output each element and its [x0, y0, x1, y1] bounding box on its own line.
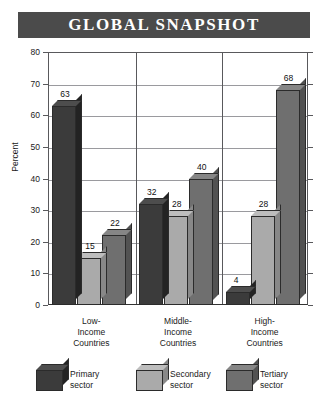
bar-value-label: 68: [284, 74, 293, 83]
y-axis-tick-mark-right: [308, 52, 313, 53]
legend-label-line1: Tertiary: [260, 369, 288, 380]
group-separator: [136, 53, 137, 304]
y-axis-tick-mark: [43, 84, 48, 85]
legend-swatch-front: [226, 370, 253, 391]
category-label-line: Countries: [135, 338, 222, 349]
bar-side-face: [213, 167, 219, 300]
category-label-line: Income: [221, 327, 308, 338]
legend-label-line2: sector: [260, 380, 288, 391]
legend-label-line1: Secondary: [170, 369, 211, 380]
chart-legend: PrimarysectorSecondarysectorTertiarysect…: [0, 358, 328, 406]
y-axis-tick-mark: [43, 210, 48, 211]
bar-side-face: [126, 223, 132, 299]
legend-label-line2: sector: [70, 380, 99, 391]
y-axis-tick-label: 80: [10, 48, 40, 57]
legend-swatch-side: [63, 358, 69, 385]
group-separator: [222, 53, 223, 304]
legend-swatch-side: [253, 358, 259, 385]
legend-swatch-primary-icon: [36, 370, 63, 391]
x-axis-category-label: Low-IncomeCountries: [48, 316, 135, 349]
bar-side-face: [76, 94, 82, 299]
bar-primary: [139, 204, 163, 305]
legend-label: Primarysector: [70, 369, 99, 390]
y-axis-tick-mark-right: [308, 273, 313, 274]
category-label-line: Middle-: [135, 316, 222, 327]
legend-swatch-front: [136, 370, 163, 391]
category-label-line: Income: [48, 327, 135, 338]
y-axis-tick-label: 10: [10, 269, 40, 278]
y-axis-tick-label: 60: [10, 111, 40, 120]
legend-swatch-front: [36, 370, 63, 391]
y-axis-tick-mark: [43, 52, 48, 53]
y-axis-tick-label: 20: [10, 238, 40, 247]
x-axis-category-label: Middle-IncomeCountries: [135, 316, 222, 349]
legend-label-line1: Primary: [70, 369, 99, 380]
y-axis-tick-mark: [43, 179, 48, 180]
y-axis-tick-mark-right: [308, 305, 313, 306]
legend-label: Tertiarysector: [260, 369, 288, 390]
bar-front-face: [52, 106, 76, 305]
bar-front-face: [226, 292, 250, 305]
bar-side-face: [300, 78, 306, 299]
gridline: [49, 85, 307, 86]
gridline: [49, 148, 307, 149]
y-axis-tick-label: 70: [10, 80, 40, 89]
bar-value-label: 40: [197, 163, 206, 172]
legend-swatch-secondary-icon: [136, 370, 163, 391]
y-axis-tick-mark: [43, 147, 48, 148]
gridline: [49, 116, 307, 117]
legend-swatch-tertiary-icon: [226, 370, 253, 391]
y-axis-tick-label: 40: [10, 175, 40, 184]
bar-value-label: 32: [147, 188, 156, 197]
legend-label-line2: sector: [170, 380, 211, 391]
category-label-line: High-: [221, 316, 308, 327]
y-axis-tick-label: 0: [10, 301, 40, 310]
bar-value-label: 22: [110, 219, 119, 228]
y-axis-tick-mark-right: [308, 147, 313, 148]
y-axis-tick-mark-right: [308, 242, 313, 243]
bar-front-face: [139, 204, 163, 305]
legend-label: Secondarysector: [170, 369, 211, 390]
y-axis-tick-mark: [43, 273, 48, 274]
y-axis-tick-mark-right: [308, 115, 313, 116]
legend-swatch-side: [163, 358, 169, 385]
bar-chart: Percent 01020304050607080631522Low-Incom…: [0, 0, 328, 409]
y-axis-tick-label: 50: [10, 143, 40, 152]
y-axis-tick-mark: [43, 242, 48, 243]
bar-primary: [52, 106, 76, 305]
bar-side-face: [275, 204, 281, 299]
y-axis-tick-mark: [43, 115, 48, 116]
category-label-line: Countries: [221, 338, 308, 349]
bar-value-label: 28: [172, 200, 181, 209]
y-axis-tick-label: 30: [10, 206, 40, 215]
gridline: [49, 180, 307, 181]
y-axis-tick-mark: [43, 305, 48, 306]
category-label-line: Income: [135, 327, 222, 338]
y-axis-tick-mark-right: [308, 84, 313, 85]
bar-value-label: 4: [234, 276, 239, 285]
bar-value-label: 28: [259, 200, 268, 209]
category-label-line: Countries: [48, 338, 135, 349]
bar-side-face: [163, 192, 169, 299]
bar-value-label: 63: [60, 90, 69, 99]
bar-side-face: [188, 204, 194, 299]
x-axis-category-label: High-IncomeCountries: [221, 316, 308, 349]
bar-primary: [226, 292, 250, 305]
bar-value-label: 15: [85, 242, 94, 251]
y-axis-tick-mark-right: [308, 179, 313, 180]
y-axis-tick-mark-right: [308, 210, 313, 211]
category-label-line: Low-: [48, 316, 135, 327]
